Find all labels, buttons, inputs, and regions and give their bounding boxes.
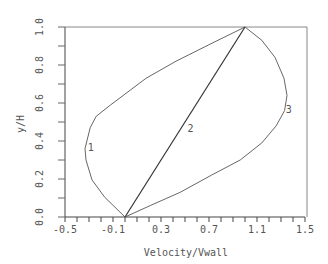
x-ticks: -0.5-0.10.30.71.11.5 [53,217,314,235]
y-tick-label: 0.8 [34,56,45,74]
curve-label-3: 3 [286,104,292,115]
y-tick-label: 1.0 [34,18,45,36]
x-tick-label: 1.5 [296,224,314,235]
y-tick-label: 0.4 [34,132,45,150]
x-tick-label: -0.5 [53,224,77,235]
x-tick-label: 1.1 [248,224,266,235]
x-tick-label: 0.3 [152,224,170,235]
curve-label-1: 1 [88,142,94,153]
curves [85,27,287,217]
curve-labels: 123 [88,104,292,153]
y-tick-label: 0.2 [34,170,45,188]
x-axis-label: Velocity/Vwall [144,247,228,258]
curve-label-2: 2 [187,123,193,134]
curve-1 [85,27,245,217]
velocity-profile-chart: -0.5-0.10.30.71.11.5 0.00.20.40.60.81.0 … [0,0,328,264]
curve-2 [125,27,245,217]
y-tick-label: 0.0 [34,208,45,226]
y-tick-label: 0.6 [34,94,45,112]
y-ticks: 0.00.20.40.60.81.0 [34,18,65,226]
curve-3 [125,27,287,217]
x-tick-label: -0.1 [101,224,125,235]
y-axis-label: y/H [15,115,26,133]
x-tick-label: 0.7 [200,224,218,235]
plot-frame [65,27,307,217]
